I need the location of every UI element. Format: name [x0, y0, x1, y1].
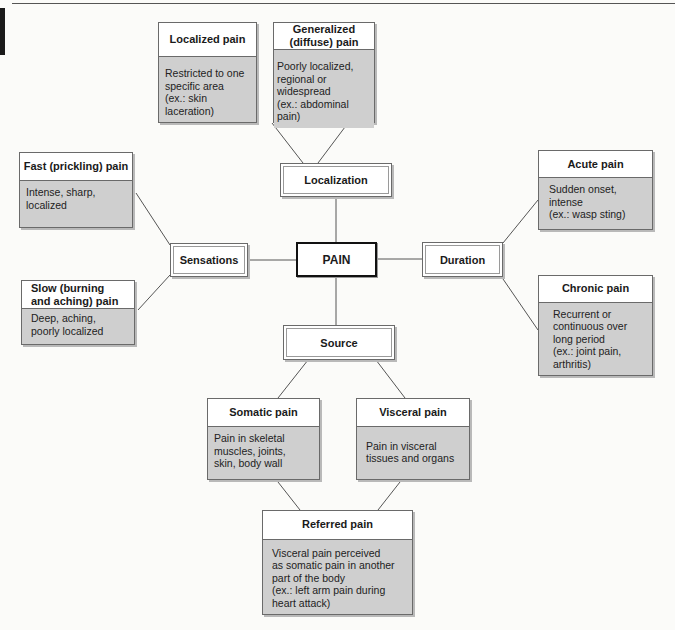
card-title: Visceral pain	[357, 399, 469, 427]
card-description: Intense, sharp, localized	[20, 181, 132, 227]
card-title: Fast (prickling) pain	[20, 153, 132, 181]
card-acute-pain: Acute pain Sudden onset, intense (ex.: w…	[538, 150, 653, 230]
card-title: Somatic pain	[208, 399, 319, 427]
card-description: Pain in visceral tissues and organs	[357, 427, 469, 479]
node-sensations: Sensations	[170, 243, 248, 277]
card-somatic-pain: Somatic pain Pain in skeletal muscles, j…	[207, 398, 320, 480]
card-chronic-pain: Chronic pain Recurrent or continuous ove…	[538, 275, 653, 376]
card-description: Recurrent or continuous over long period…	[539, 303, 652, 376]
card-fast-pain: Fast (prickling) pain Intense, sharp, lo…	[19, 152, 133, 228]
card-slow-pain: Slow (burning and aching) pain Deep, ach…	[21, 280, 135, 345]
card-title: Referred pain	[263, 511, 412, 540]
node-localization: Localization	[280, 163, 392, 197]
card-generalized-pain: Generalized (diffuse) pain Poorly locali…	[273, 22, 375, 123]
card-description: Pain in skeletal muscles, joints, skin, …	[208, 427, 319, 479]
card-title: Chronic pain	[539, 276, 652, 303]
card-title: Slow (burning and aching) pain	[22, 281, 134, 309]
card-referred-pain: Referred pain Visceral pain perceived as…	[262, 510, 413, 615]
node-duration: Duration	[422, 242, 503, 277]
card-title: Generalized (diffuse) pain	[274, 23, 374, 50]
card-description: Restricted to one specific area (ex.: sk…	[159, 57, 256, 122]
card-description: Deep, aching, poorly localized	[22, 309, 134, 344]
card-title: Acute pain	[539, 151, 652, 178]
node-pain-center: PAIN	[296, 242, 377, 277]
card-description: Poorly localized, regional or widespread…	[274, 50, 374, 128]
card-title: Localized pain	[159, 23, 256, 57]
card-visceral-pain: Visceral pain Pain in visceral tissues a…	[356, 398, 470, 480]
card-description: Visceral pain perceived as somatic pain …	[263, 540, 412, 615]
card-localized-pain: Localized pain Restricted to one specifi…	[158, 22, 257, 123]
card-description: Sudden onset, intense (ex.: wasp sting)	[539, 178, 652, 229]
node-source: Source	[283, 325, 395, 360]
